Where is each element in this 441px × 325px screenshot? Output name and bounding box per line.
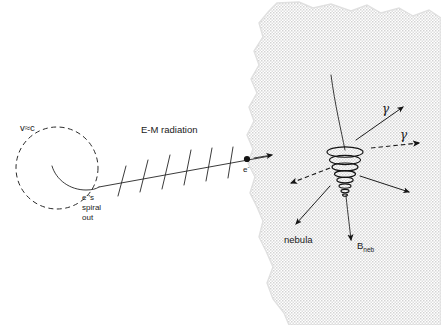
electron-dot	[244, 156, 250, 162]
spiral-label-line1: e-'s	[82, 192, 94, 202]
electron-spiral-label: e-'s spiral out	[82, 192, 101, 222]
gamma-upper-label: γ	[382, 102, 390, 116]
spiral-label-line3: out	[82, 213, 94, 222]
wave-tick	[162, 155, 170, 189]
electron-particle-label: e-	[243, 164, 249, 174]
wave-tick	[118, 166, 126, 196]
em-radiation-label: E-M radiation	[141, 124, 198, 135]
wave-tick	[140, 160, 148, 192]
physics-diagram: v≈c e-'s spiral out e-	[0, 0, 441, 325]
gamma-lower-label: γ	[400, 128, 408, 142]
nebula-label: nebula	[284, 234, 313, 245]
electron-path-spiral	[52, 166, 99, 190]
wave-tick	[184, 150, 191, 185]
figure-root: v≈c e-'s spiral out e-	[0, 0, 441, 325]
wave-tick	[206, 148, 212, 181]
velocity-label: v≈c	[20, 122, 35, 133]
spiral-label-line2: spiral	[82, 203, 101, 212]
